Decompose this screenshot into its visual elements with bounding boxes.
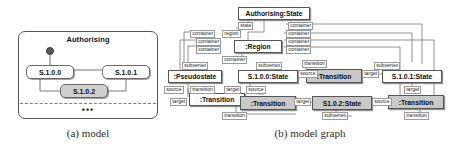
edge-label-subvertex-bottom: subvertex bbox=[322, 112, 348, 120]
caption-model: (a) model bbox=[18, 127, 158, 139]
node-transition-mid: :Transition bbox=[240, 96, 296, 110]
node-s1002-state: S1.0.2:State bbox=[312, 96, 372, 110]
edge-label-target-mid: target bbox=[294, 98, 311, 106]
edge-label-target-left: target bbox=[224, 86, 241, 94]
edge-label-container-r3: container bbox=[286, 46, 311, 54]
edge-label-region: region bbox=[222, 30, 241, 38]
model-transitions-svg bbox=[18, 31, 158, 119]
edge-label-transition-bottom-right: transition bbox=[404, 112, 429, 120]
node-region: :Region bbox=[234, 40, 282, 53]
edge-label-source-s1000-top: source bbox=[298, 70, 318, 78]
edge-label-target-left2: target bbox=[170, 98, 187, 106]
edge-label-transition-bottom: transition bbox=[222, 112, 247, 120]
edge-label-container-r1: container bbox=[286, 30, 311, 38]
edge-label-container-l2: container bbox=[196, 38, 221, 46]
figure-root: Authorising S.1.0.0 S.1.0.1 S.1.0.2 ••• … bbox=[0, 0, 462, 156]
edge-label-container-l3: container bbox=[196, 46, 221, 54]
node-transition-right: :Transition bbox=[388, 95, 444, 109]
node-s1001-state: S.1.0.1:State bbox=[382, 70, 442, 83]
edge-label-state: state bbox=[238, 22, 253, 30]
caption-model-graph: (b) model graph bbox=[230, 127, 390, 139]
edge-label-container-mid: container bbox=[222, 56, 247, 64]
node-s1000-state: S.1.0.0:State bbox=[238, 70, 298, 83]
edge-label-container-l1: container bbox=[190, 30, 215, 38]
model-panel: Authorising S.1.0.0 S.1.0.1 S.1.0.2 ••• bbox=[18, 31, 158, 119]
edge-label-source-s1002: source bbox=[372, 98, 392, 106]
node-transition-left: :Transition bbox=[189, 93, 245, 106]
edge-label-source-s1000-mid: source bbox=[246, 86, 266, 94]
edge-label-transition-top: transition bbox=[302, 60, 327, 68]
node-pseudostate: :Pseudostate bbox=[168, 70, 222, 83]
edge-label-container-r2: container bbox=[286, 38, 311, 46]
edge-label-subvertex-s1001: subvertex bbox=[374, 62, 400, 70]
edge-label-subvertex-s1000: subvertex bbox=[256, 62, 282, 70]
edge-label-source-pseudostate: source bbox=[164, 86, 184, 94]
edge-label-target-right: target bbox=[404, 86, 421, 94]
edge-label-transition-left: transition bbox=[190, 86, 215, 94]
edge-label-container-top: container bbox=[288, 22, 313, 30]
edge-label-subvertex-pseudostate: subvertex bbox=[182, 62, 208, 70]
edge-label-target-top: target bbox=[362, 70, 379, 78]
model-graph-panel: Authorising:State :Region :Pseudostate S… bbox=[176, 2, 460, 124]
node-authorising-state: Authorising:State bbox=[238, 7, 310, 20]
